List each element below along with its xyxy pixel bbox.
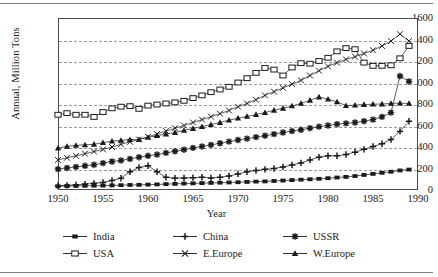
y-axis-title: Annual, Million Tons bbox=[10, 0, 21, 149]
gridline-200 bbox=[59, 170, 417, 171]
legend-marker-plus-icon bbox=[172, 231, 198, 242]
x-axis-title: Year bbox=[0, 208, 433, 219]
legend-marker-cross-icon bbox=[172, 248, 198, 259]
legend-marker-star-icon bbox=[282, 231, 308, 242]
legend-label: E.Europe bbox=[203, 248, 242, 259]
x-tick-1975: 1975 bbox=[263, 193, 303, 204]
legend-label: China bbox=[203, 231, 228, 242]
legend-item-india[interactable]: India bbox=[62, 231, 172, 242]
legend-label: W.Europe bbox=[313, 248, 355, 259]
x-tick-1980: 1980 bbox=[308, 193, 348, 204]
legend-marker-open-square-icon bbox=[62, 248, 88, 259]
legend-label: USSR bbox=[313, 231, 339, 242]
chart-legend: IndiaChinaUSSRUSAE.EuropeW.Europe bbox=[62, 228, 392, 262]
plot-area bbox=[58, 18, 418, 190]
x-tick-1990: 1990 bbox=[398, 193, 438, 204]
gridline-600 bbox=[59, 127, 417, 128]
legend-item-w-europe[interactable]: W.Europe bbox=[282, 248, 392, 259]
legend-item-ussr[interactable]: USSR bbox=[282, 231, 392, 242]
legend-label: India bbox=[93, 231, 115, 242]
gridline-1000 bbox=[59, 84, 417, 85]
legend-item-china[interactable]: China bbox=[172, 231, 282, 242]
gridline-1200 bbox=[59, 62, 417, 63]
legend-item-e-europe[interactable]: E.Europe bbox=[172, 248, 282, 259]
x-tick-1985: 1985 bbox=[353, 193, 393, 204]
legend-label: USA bbox=[93, 248, 114, 259]
gridline-800 bbox=[59, 105, 417, 106]
legend-marker-filled-square-icon bbox=[62, 231, 88, 242]
gridline-400 bbox=[59, 148, 417, 149]
x-tick-1970: 1970 bbox=[218, 193, 258, 204]
gridline-1400 bbox=[59, 41, 417, 42]
x-tick-1960: 1960 bbox=[128, 193, 168, 204]
legend-marker-filled-triangle-icon bbox=[282, 248, 308, 259]
x-tick-1950: 1950 bbox=[38, 193, 78, 204]
x-tick-1955: 1955 bbox=[83, 193, 123, 204]
legend-item-usa[interactable]: USA bbox=[62, 248, 172, 259]
x-tick-1965: 1965 bbox=[173, 193, 213, 204]
